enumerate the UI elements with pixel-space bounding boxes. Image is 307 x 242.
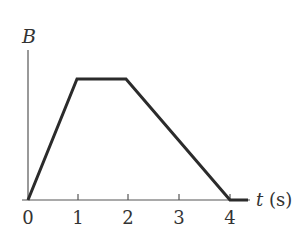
x-tick-labels: 0 1 2 3 4 [22, 207, 235, 228]
x-ticks [78, 194, 230, 200]
tick-label-0: 0 [22, 207, 33, 228]
tick-label-3: 3 [173, 207, 184, 228]
chart: B t (s) 0 1 2 3 4 [0, 0, 307, 242]
tick-label-2: 2 [122, 207, 133, 228]
y-axis-label: B [21, 25, 36, 47]
x-axis-label: t (s) [256, 189, 292, 210]
tick-label-1: 1 [72, 207, 83, 228]
b-curve [28, 79, 248, 200]
tick-label-4: 4 [224, 207, 235, 228]
